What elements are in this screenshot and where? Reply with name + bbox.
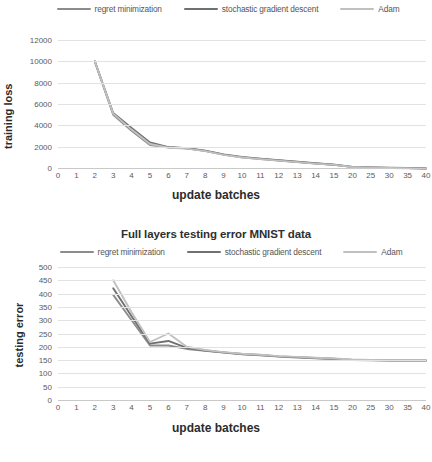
series-line	[95, 61, 426, 168]
x-axis-tick-label: 35	[403, 403, 412, 412]
x-axis-label-testing-error: update batches	[0, 421, 432, 435]
y-axis-tick-label: 200	[4, 342, 52, 351]
gridline	[58, 267, 426, 268]
legend-item-adam[interactable]: Adam	[343, 247, 402, 257]
y-axis-tick-label: 150	[4, 356, 52, 365]
y-axis-tick-label: 100	[4, 369, 52, 378]
x-axis-tick-label: 6	[166, 403, 170, 412]
x-axis-tick-label: 3	[111, 403, 115, 412]
x-axis-tick-label: 20	[348, 171, 357, 180]
series-line	[95, 61, 426, 168]
y-axis-tick-label: 12000	[4, 36, 52, 45]
x-axis-tick-label: 20	[348, 403, 357, 412]
gridline	[58, 147, 426, 148]
y-axis-tick-label: 300	[4, 316, 52, 325]
y-axis-tick-label: 10000	[4, 57, 52, 66]
x-axis-tick-label: 0	[56, 171, 60, 180]
x-axis-tick-label: 11	[256, 171, 264, 180]
y-axis-tick-label: 6000	[4, 100, 52, 109]
legend-label: regret minimization	[98, 247, 165, 257]
x-axis-tick-label: 15	[330, 403, 339, 412]
x-axis-tick-label: 4	[129, 403, 133, 412]
x-axis-tick-label: 8	[203, 403, 207, 412]
legend-label: stochastic gradient descent	[222, 4, 319, 14]
x-axis-tick-label: 9	[221, 403, 225, 412]
legend-line-icon	[57, 8, 91, 11]
gridline	[58, 320, 426, 321]
gridline	[58, 387, 426, 388]
x-axis-label-training-loss: update batches	[0, 188, 432, 202]
gridline	[58, 61, 426, 62]
gridline	[58, 294, 426, 295]
gridline	[58, 83, 426, 84]
legend-item-regret-minimization[interactable]: regret minimization	[57, 4, 162, 14]
legend-testing-error: regret minimization stochastic gradient …	[0, 243, 432, 261]
x-axis-tick-label: 25	[366, 171, 375, 180]
legend-item-adam[interactable]: Adam	[340, 4, 399, 14]
legend-label: regret minimization	[95, 4, 162, 14]
x-axis-tick-label: 7	[185, 171, 189, 180]
y-axis-tick-label: 0	[4, 396, 52, 405]
x-axis-ticks-testing-error: 01234567891011121314152025303540	[58, 403, 426, 417]
legend-label: Adam	[378, 4, 399, 14]
legend-line-icon	[187, 251, 221, 254]
plot-area-training-loss	[58, 40, 426, 168]
y-axis-ticks-training-loss: 020004000600080001000012000	[0, 40, 52, 168]
x-axis-tick-label: 15	[330, 171, 339, 180]
y-axis-tick-label: 8000	[4, 78, 52, 87]
y-axis-tick-label: 250	[4, 329, 52, 338]
legend-label: Adam	[381, 247, 402, 257]
legend-item-stochastic-gradient-descent[interactable]: stochastic gradient descent	[187, 247, 322, 257]
x-axis-tick-label: 4	[129, 171, 133, 180]
y-axis-tick-label: 450	[4, 276, 52, 285]
y-axis-tick-label: 50	[4, 382, 52, 391]
legend-line-icon	[340, 8, 374, 11]
x-axis-tick-label: 11	[256, 403, 264, 412]
chart-training-loss: regret minimization stochastic gradient …	[0, 0, 432, 215]
chart-title-testing-error: Full layers testing error MNIST data	[0, 215, 432, 243]
x-axis-tick-label: 1	[74, 403, 78, 412]
legend-item-regret-minimization[interactable]: regret minimization	[60, 247, 165, 257]
legend-item-stochastic-gradient-descent[interactable]: stochastic gradient descent	[184, 4, 319, 14]
y-axis-tick-label: 2000	[4, 142, 52, 151]
figure-container: regret minimization stochastic gradient …	[0, 0, 432, 462]
series-line	[113, 295, 426, 361]
x-axis-tick-label: 1	[74, 171, 78, 180]
x-axis-tick-label: 40	[422, 171, 431, 180]
x-axis-line	[58, 400, 426, 401]
x-axis-tick-label: 14	[311, 403, 320, 412]
x-axis-tick-label: 8	[203, 171, 207, 180]
x-axis-tick-label: 13	[293, 403, 302, 412]
x-axis-tick-label: 5	[148, 171, 152, 180]
x-axis-tick-label: 0	[56, 403, 60, 412]
x-axis-tick-label: 35	[403, 171, 412, 180]
gridline	[58, 334, 426, 335]
x-axis-tick-label: 2	[93, 403, 97, 412]
x-axis-tick-label: 12	[274, 403, 283, 412]
x-axis-tick-label: 30	[385, 403, 394, 412]
x-axis-tick-label: 12	[274, 171, 283, 180]
x-axis-line	[58, 168, 426, 169]
y-axis-tick-label: 500	[4, 263, 52, 272]
x-axis-tick-label: 13	[293, 171, 302, 180]
x-axis-tick-label: 9	[221, 171, 225, 180]
y-axis-tick-label: 350	[4, 302, 52, 311]
x-axis-tick-label: 10	[238, 403, 247, 412]
legend-line-icon	[343, 251, 377, 254]
x-axis-tick-label: 7	[185, 403, 189, 412]
x-axis-tick-label: 3	[111, 171, 115, 180]
x-axis-tick-label: 6	[166, 171, 170, 180]
x-axis-tick-label: 2	[93, 171, 97, 180]
chart-testing-error: Full layers testing error MNIST data reg…	[0, 215, 432, 462]
gridline	[58, 360, 426, 361]
series-line	[113, 288, 426, 360]
plot-wrap-testing-error: testing error 05010015020025030035040045…	[0, 261, 432, 462]
x-axis-tick-label: 14	[311, 171, 320, 180]
plot-wrap-training-loss: training loss 02000400060008000100001200…	[0, 18, 432, 215]
gridline	[58, 40, 426, 41]
series-line	[95, 61, 426, 168]
y-axis-tick-label: 0	[4, 164, 52, 173]
gridline	[58, 373, 426, 374]
legend-line-icon	[60, 251, 94, 254]
x-axis-tick-label: 10	[238, 171, 247, 180]
